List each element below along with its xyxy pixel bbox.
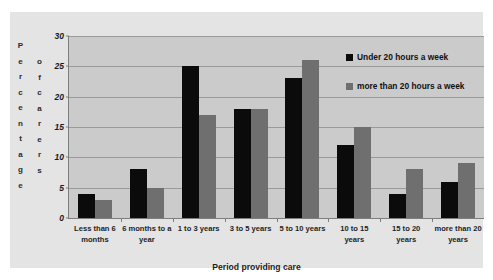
bar (234, 109, 251, 218)
y-axis-title-letter: e (18, 178, 22, 194)
y-axis-title-word-2: ofcarers (31, 38, 48, 220)
x-axis-tickmark (380, 218, 381, 222)
y-axis-title-letter: f (38, 70, 41, 86)
y-axis-tick-label: 10 (55, 152, 64, 162)
bar-group (277, 36, 329, 218)
y-axis-title-letter: r (38, 116, 41, 132)
y-axis-tick-label: 20 (55, 92, 64, 102)
y-axis-title-letter: r (19, 69, 22, 85)
x-axis-tick-label: 6 months to a year (121, 224, 173, 245)
bar (147, 188, 164, 218)
y-axis-title-letter: e (18, 54, 22, 70)
legend-entry: Under 20 hours a week (346, 52, 465, 62)
legend-swatch (346, 83, 353, 90)
y-axis-tick-label: 30 (55, 31, 64, 41)
y-axis-title-letter: c (18, 85, 22, 101)
chart-legend: Under 20 hours a weekmore than 20 hours … (346, 52, 465, 91)
x-axis-tickmark (277, 218, 278, 222)
y-axis-tick-label: 25 (55, 61, 64, 71)
y-axis-title-letter: a (18, 147, 22, 163)
bar (354, 127, 371, 218)
bar (78, 194, 95, 218)
x-axis-tick-label: 15 to 20 years (380, 224, 432, 245)
y-axis-title: Percentage ofcarers (12, 38, 56, 220)
bar-group (173, 36, 225, 218)
x-axis-tick-label: 1 to 3 years (173, 224, 225, 245)
x-axis-tick-label: 5 to 10 years (277, 224, 329, 245)
bar (95, 200, 112, 218)
y-axis-tick-label: 5 (59, 183, 64, 193)
y-axis-title-letter: e (37, 132, 41, 148)
bar (199, 115, 216, 218)
legend-swatch (346, 54, 353, 61)
x-axis-title: Period providing care (10, 262, 493, 272)
bar (182, 66, 199, 218)
bar-group (121, 36, 173, 218)
bar-group (69, 36, 121, 218)
x-axis-tickmark (328, 218, 329, 222)
bar (389, 194, 406, 218)
x-axis-tickmark (432, 218, 433, 222)
y-axis-title-letter: n (18, 116, 23, 132)
bar (406, 169, 423, 218)
bar (337, 145, 354, 218)
y-axis-title-letter: s (37, 163, 41, 179)
x-axis-tick-label: 10 to 15 years (328, 224, 380, 245)
legend-entry: more than 20 hours a week (346, 81, 465, 91)
y-axis-tick-label: 0 (59, 213, 64, 223)
y-axis-title-letter: r (38, 147, 41, 163)
y-axis-title-letter: t (19, 131, 22, 147)
x-axis-tickmark (173, 218, 174, 222)
chart-figure: Percentage ofcarers 051015202530 Less th… (0, 0, 493, 280)
bar-group (225, 36, 277, 218)
x-axis-tickmark (121, 218, 122, 222)
x-axis-tick-label: 3 to 5 years (225, 224, 277, 245)
chart-panel: Percentage ofcarers 051015202530 Less th… (10, 12, 483, 268)
y-axis-title-letter: c (37, 85, 41, 101)
bar (285, 78, 302, 218)
bar (458, 163, 475, 218)
x-axis-tick-label: Less than 6 months (69, 224, 121, 245)
x-axis-tickmark (225, 218, 226, 222)
legend-label: more than 20 hours a week (357, 81, 465, 91)
y-axis-title-letter: e (18, 100, 22, 116)
y-axis-title-letter: a (37, 101, 41, 117)
bar (302, 60, 319, 218)
x-axis-tick-label: more than 20 years (432, 224, 484, 245)
legend-label: Under 20 hours a week (357, 52, 448, 62)
x-axis-tick-labels: Less than 6 months6 months to a year1 to… (69, 224, 484, 245)
y-axis-title-word-1: Percentage (12, 38, 29, 220)
bar (130, 169, 147, 218)
y-axis-tick-label: 15 (55, 122, 64, 132)
y-axis-title-letter: P (18, 38, 23, 54)
bar (441, 182, 458, 218)
y-axis-title-letter: o (37, 54, 42, 70)
bar (251, 109, 268, 218)
y-axis-title-letter: g (18, 162, 23, 178)
